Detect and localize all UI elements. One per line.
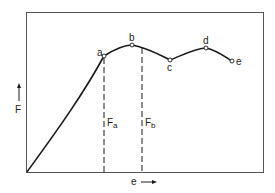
fb-label: Fb	[145, 117, 156, 130]
point-e-marker	[230, 59, 234, 63]
point-a-label: a	[97, 47, 103, 58]
plot-frame	[27, 13, 264, 173]
point-d-marker	[204, 46, 208, 50]
y-axis-arrowhead-icon	[17, 83, 21, 88]
point-e-label: e	[236, 56, 242, 67]
x-axis-label: e	[131, 176, 137, 187]
point-b-marker	[130, 43, 134, 47]
point-a-marker	[102, 54, 106, 58]
point-b-label: b	[129, 32, 135, 43]
point-c-label: c	[167, 62, 172, 73]
load-curve	[27, 45, 232, 172]
x-axis-arrowhead-icon	[152, 180, 157, 184]
fa-label: Fa	[107, 117, 118, 130]
point-d-label: d	[203, 35, 209, 46]
y-axis-label: F	[15, 104, 21, 115]
load-elongation-diagram: a b c d e Fa Fb F e	[0, 0, 275, 193]
